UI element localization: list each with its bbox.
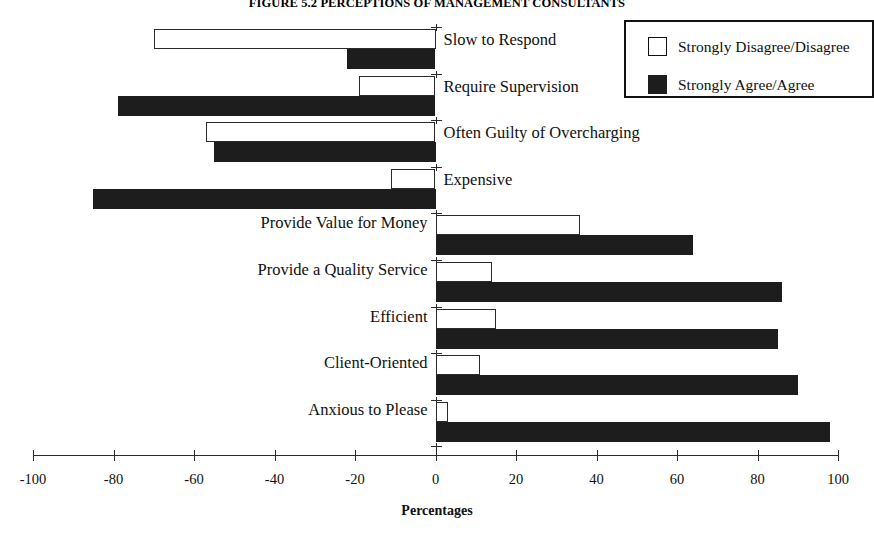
legend-item: Strongly Disagree/Disagree — [648, 37, 850, 56]
x-axis-tick-label: -80 — [84, 471, 144, 488]
x-axis-tick — [597, 450, 598, 461]
category-label: Require Supervision — [444, 78, 579, 96]
zero-axis-tick-mark — [431, 260, 442, 261]
category-label: Provide a Quality Service — [258, 261, 428, 279]
bar-disagree — [436, 355, 480, 375]
x-axis-tick-label: -60 — [164, 471, 224, 488]
legend-label: Strongly Agree/Agree — [678, 76, 814, 94]
zero-axis-tick-mark — [431, 400, 442, 401]
zero-axis-tick-mark — [431, 74, 442, 75]
bar-disagree — [359, 76, 435, 96]
x-axis-tick — [838, 450, 839, 461]
zero-axis-tick-mark — [431, 27, 442, 28]
bar-agree — [436, 235, 694, 255]
bar-disagree — [436, 402, 448, 422]
bar-agree — [436, 329, 778, 349]
bar-agree — [436, 282, 782, 302]
x-axis-tick-label: -100 — [3, 471, 63, 488]
x-axis-tick-label: 80 — [728, 471, 788, 488]
bar-disagree — [436, 262, 492, 282]
x-axis-tick — [33, 450, 34, 461]
zero-axis-tick-mark — [431, 213, 442, 214]
category-label: Efficient — [370, 308, 427, 326]
bar-agree — [436, 375, 798, 395]
legend-swatch-disagree — [648, 37, 667, 56]
x-axis-tick — [758, 450, 759, 461]
zero-axis-tick-mark — [431, 446, 442, 447]
legend-swatch-agree — [648, 75, 667, 94]
x-axis-tick — [516, 450, 517, 461]
legend-label: Strongly Disagree/Disagree — [678, 38, 850, 56]
x-axis-tick-label: 20 — [486, 471, 546, 488]
zero-axis-tick-mark — [431, 120, 442, 121]
category-label: Anxious to Please — [308, 401, 427, 419]
x-axis-tick-label: 0 — [406, 471, 466, 488]
chart-figure: FIGURE 5.2 PERCEPTIONS OF MANAGEMENT CON… — [0, 0, 874, 535]
x-axis-tick-label: 40 — [567, 471, 627, 488]
bar-disagree — [391, 169, 435, 189]
x-axis-tick — [436, 450, 437, 461]
zero-axis-tick-mark — [431, 307, 442, 308]
x-axis-tick-label: -20 — [325, 471, 385, 488]
x-axis-tick — [677, 450, 678, 461]
x-axis-tick-label: 60 — [647, 471, 707, 488]
bar-disagree — [154, 29, 436, 49]
bar-agree — [93, 189, 435, 209]
bar-agree — [436, 422, 830, 442]
category-label: Expensive — [444, 171, 513, 189]
legend-item: Strongly Agree/Agree — [648, 75, 814, 94]
bar-agree — [214, 142, 435, 162]
bar-agree — [118, 96, 436, 116]
x-axis-tick — [194, 450, 195, 461]
category-label: Slow to Respond — [444, 31, 557, 49]
bar-disagree — [206, 122, 435, 142]
category-label: Client-Oriented — [324, 354, 428, 372]
bar-disagree — [436, 215, 581, 235]
zero-axis-tick-mark — [431, 167, 442, 168]
chart-legend: Strongly Disagree/DisagreeStrongly Agree… — [624, 20, 874, 98]
bar-agree — [347, 49, 436, 69]
x-axis-tick-label: -40 — [245, 471, 305, 488]
x-axis-tick-label: 100 — [808, 471, 868, 488]
category-label: Often Guilty of Overcharging — [444, 124, 640, 142]
x-axis-tick — [355, 450, 356, 461]
bar-disagree — [436, 309, 496, 329]
zero-axis-tick-mark — [431, 353, 442, 354]
category-label: Provide Value for Money — [261, 214, 428, 232]
x-axis-tick — [275, 450, 276, 461]
x-axis-title: Percentages — [0, 503, 874, 519]
x-axis-tick — [114, 450, 115, 461]
